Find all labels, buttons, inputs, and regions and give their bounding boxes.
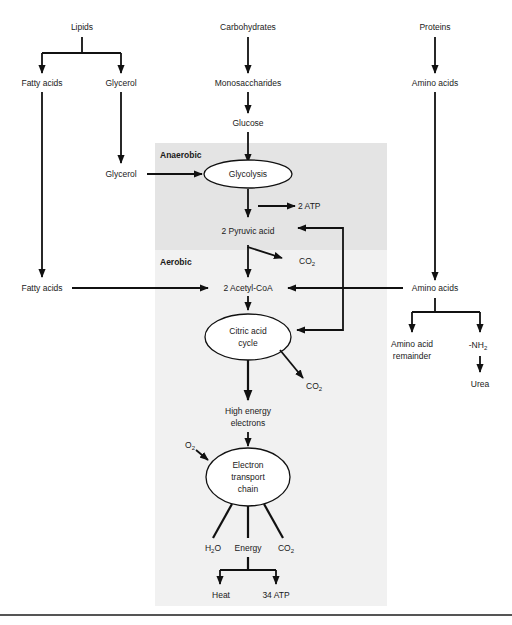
energy-label: Energy [235,543,263,553]
high-energy-line1: High energy [225,406,272,416]
fatty-acids-mid-label: Fatty acids [21,283,62,293]
lipids-label: Lipids [71,22,93,32]
citric-line2: cycle [238,338,258,348]
aerobic-label: Aerobic [160,257,192,267]
amino-acids-top-label: Amino acids [412,78,458,88]
amino-split-line [412,298,480,312]
lipids-split-line [42,37,121,53]
carbohydrates-label: Carbohydrates [220,22,276,32]
amino-remainder-line1: Amino acid [391,339,433,349]
pyruvic-acid-label: 2 Pyruvic acid [222,226,275,236]
nh2-label: -NH2 [469,340,488,351]
citric-line1: Citric acid [229,326,267,336]
anaerobic-label: Anaerobic [160,150,202,160]
urea-label: Urea [471,379,490,389]
citric-acid-cycle-node [205,314,291,360]
high-energy-line2: electrons [231,418,266,428]
glycerol-mid-label: Glycerol [105,169,136,179]
aerobic-region [155,250,387,606]
heat-label: Heat [212,590,231,600]
glycolysis-label: Glycolysis [229,169,267,179]
fatty-acids-top-label: Fatty acids [21,78,62,88]
amino-acids-mid-label: Amino acids [412,283,458,293]
etc-line1: Electron [232,460,263,470]
etc-line2: transport [231,472,265,482]
monosaccharides-label: Monosaccharides [215,78,282,88]
glycerol-top-label: Glycerol [105,78,136,88]
amino-remainder-line2: remainder [393,351,431,361]
glucose-label: Glucose [232,118,263,128]
metabolism-diagram: Anaerobic Aerobic Lipids Carbohydrates P… [0,0,512,625]
acetyl-coa-label: 2 Acetyl-CoA [223,283,272,293]
etc-line3: chain [238,484,259,494]
atp-2-label: 2 ATP [298,201,321,211]
proteins-label: Proteins [419,22,450,32]
atp-34-label: 34 ATP [262,590,290,600]
